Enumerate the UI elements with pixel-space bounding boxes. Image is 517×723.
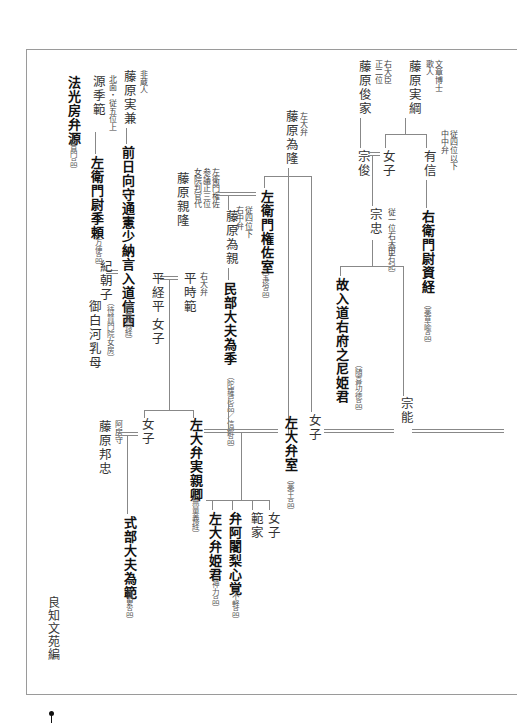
line — [264, 176, 265, 188]
line — [252, 500, 253, 510]
person-sanekane: 藤原実兼 — [119, 70, 138, 126]
note-shinkaku: （不軽品） — [229, 584, 240, 624]
title-sanetsuna-2: 歌人 — [424, 60, 433, 76]
line — [127, 436, 128, 514]
marriage-line — [412, 429, 504, 433]
line — [269, 500, 270, 510]
note-himegimi: （神力品） — [209, 572, 220, 612]
person-nyoshi5: 女子 — [263, 512, 282, 540]
title-arinobu: 従四位以下 — [448, 130, 457, 170]
line — [340, 266, 341, 276]
line — [126, 128, 127, 144]
line — [311, 176, 312, 412]
note-tomoko: （待賢門院女房） — [104, 298, 115, 362]
person-munetada: 宗忠 — [365, 208, 384, 236]
title-arinobu-2: 中中弁 — [439, 130, 448, 154]
marriage-line — [218, 192, 256, 196]
line — [206, 500, 270, 501]
person-arinobu: 有信 — [419, 150, 438, 178]
title-tokinori: 右大弁 — [198, 272, 207, 296]
title-chikataka-2: 参議正三位 — [201, 168, 210, 208]
person-tokinori: 平時範 — [179, 272, 198, 314]
note-sueyori: （方便品） — [92, 230, 103, 270]
line — [228, 268, 229, 280]
person-gonnosuke: 左衛門権佐室 — [257, 190, 276, 274]
person-kunitada: 藤原邦忠 — [94, 420, 113, 476]
line — [403, 266, 404, 396]
person-toshiie: 藤原俊家 — [354, 60, 373, 116]
person-amagimi: 故入道右府之尼姫君 — [332, 278, 351, 404]
person-nyoshi2: 女子 — [304, 414, 323, 442]
note-amagimi: （随喜功徳品） — [352, 360, 363, 416]
person-muneyoshi: 宗能 — [396, 397, 415, 425]
person-suenori: 源季範 — [88, 75, 107, 117]
line — [385, 134, 427, 135]
line — [372, 156, 373, 206]
line — [372, 240, 373, 266]
line — [385, 134, 386, 148]
note-shinzei: （観普賢経） — [122, 296, 133, 344]
person-nyoshi3: 女子 — [147, 318, 166, 346]
pin-marker — [49, 711, 54, 716]
person-sukenori: 右衛門尉資経 — [418, 210, 437, 294]
note-genben: （普門品） — [67, 134, 78, 174]
person-sueyori: 左衛門尉季頼 — [87, 156, 106, 240]
person-nyoshi1: 女子 — [378, 150, 397, 178]
person-sanetsuna: 藤原実綱 — [404, 60, 423, 116]
title-tamechika-2: 右中弁 — [234, 206, 243, 230]
line — [360, 118, 361, 148]
person-nyoshi4: 女子 — [137, 418, 156, 446]
line — [340, 266, 404, 267]
person-tametaka: 藤原為隆 — [281, 110, 300, 166]
note-gonnosuke: （宝塔品） — [259, 264, 270, 304]
title-sanekane: 非蔵人 — [138, 70, 147, 94]
line — [264, 176, 312, 177]
title-suenori: 北面・従五位上 — [107, 75, 116, 131]
line — [426, 134, 427, 148]
title-tamechika: 従四位下 — [243, 206, 252, 238]
line — [426, 180, 427, 208]
person-tamesue: 民部大夫為季 — [220, 282, 239, 366]
line — [193, 410, 194, 418]
marriage-line — [324, 429, 394, 433]
line — [144, 410, 194, 411]
note-munetada: （中右記） — [385, 238, 396, 278]
line — [288, 168, 289, 434]
editor-credit: 良知文苑編 — [44, 596, 61, 661]
title-toshiie: 右大臣 — [382, 60, 391, 84]
note-tamenori: （嘱累品） — [123, 584, 134, 624]
line — [232, 500, 233, 510]
line — [144, 410, 145, 418]
line — [95, 132, 96, 154]
line — [169, 280, 170, 410]
note-sadaibenshitsu: （薬王品） — [284, 475, 295, 515]
note-tamesue: （陀羅尼品／信解品） — [224, 372, 235, 452]
title-chikataka-3: 女院判官代 — [192, 168, 201, 208]
person-menoto: 御白河乳母 — [84, 300, 103, 370]
line — [241, 433, 242, 500]
person-chikataka: 藤原親隆 — [172, 172, 191, 228]
line — [212, 500, 213, 510]
note-sukenori: （薬草喩品） — [421, 300, 432, 348]
note-sanechika: （無量義経） — [189, 490, 200, 538]
title-toshiie-2: 正二位 — [373, 60, 382, 84]
title-sanetsuna: 文章博士 — [433, 60, 442, 92]
title-chikataka: 左衛門権佐 — [210, 168, 219, 208]
line — [228, 196, 229, 210]
line — [405, 118, 406, 134]
person-sadaibenshitsu: 左大弁室 — [281, 416, 300, 472]
person-tsunehira: 平経平 — [147, 272, 166, 314]
